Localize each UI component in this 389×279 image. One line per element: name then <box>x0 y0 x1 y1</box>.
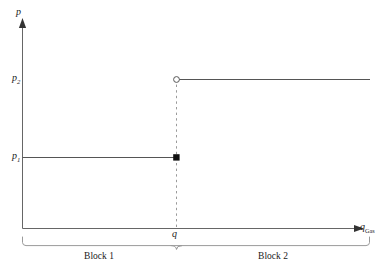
step-function-group <box>23 80 371 158</box>
block-2-label: Block 2 <box>176 251 370 261</box>
block-1-closed-endpoint-marker <box>173 154 179 160</box>
breakpoint-label-q: q <box>172 229 177 239</box>
block-braces-group <box>23 237 370 249</box>
tick-label-p1: p1 <box>12 151 20 164</box>
tick-label-p2: p2 <box>12 73 20 86</box>
block-2-open-endpoint-marker <box>174 77 180 83</box>
y-axis-label: p <box>16 7 21 17</box>
block-1-brace <box>23 237 183 249</box>
tick-label-p1-subscript: 1 <box>17 156 20 163</box>
step-tariff-chart: p p2 p1 q qGas Block 1 Block 2 <box>0 0 389 279</box>
axis-group <box>19 18 364 232</box>
chart-canvas <box>0 0 389 279</box>
block-1-label: Block 1 <box>22 251 176 261</box>
x-axis-label-subscript: Gas <box>365 227 375 234</box>
tick-label-p2-subscript: 2 <box>17 78 20 85</box>
x-axis-label: qGas <box>360 222 375 234</box>
block-2-brace <box>177 237 370 249</box>
y-axis-arrowhead <box>19 18 26 28</box>
